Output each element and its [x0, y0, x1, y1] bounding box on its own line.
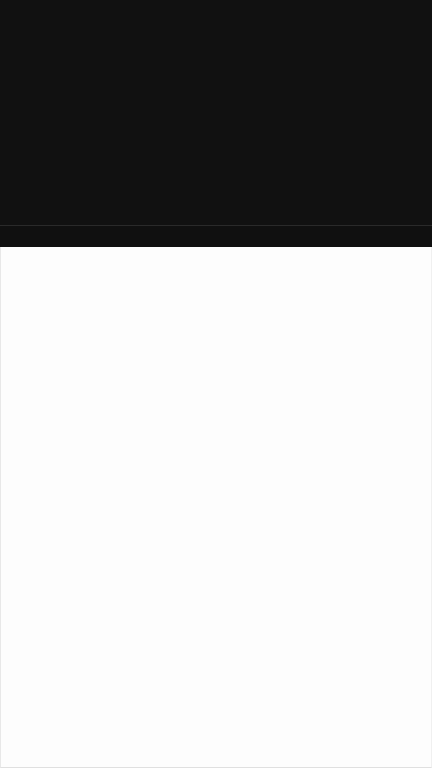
content-area	[0, 247, 432, 768]
app-screen	[0, 0, 432, 768]
toolbar-strip	[0, 226, 432, 247]
media-area	[0, 0, 432, 225]
